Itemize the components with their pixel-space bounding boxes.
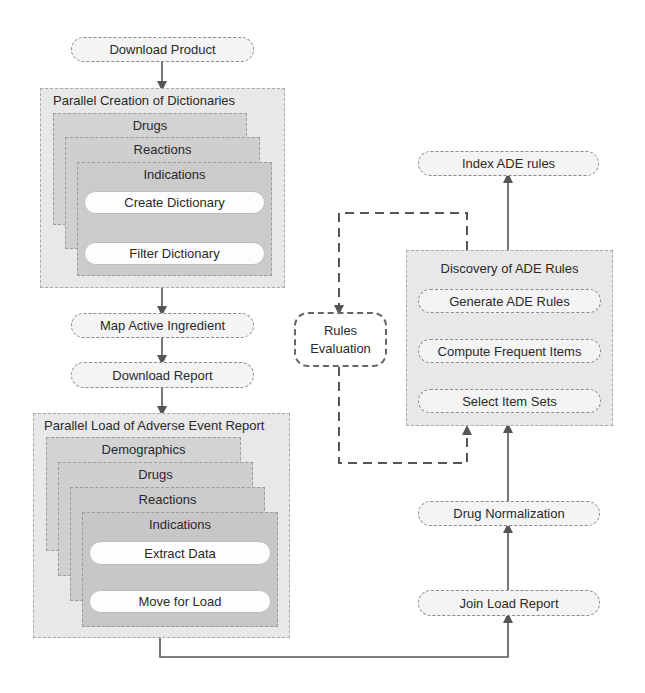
select-item-sets-label: Select Item Sets <box>462 394 557 409</box>
map-active-ingredient-label: Map Active Ingredient <box>100 318 225 333</box>
generate-ade-rules-label: Generate ADE Rules <box>449 294 570 309</box>
rules-evaluation-line1: Rules <box>324 322 357 340</box>
select-item-sets-node[interactable]: Select Item Sets <box>418 389 601 413</box>
join-load-report-label: Join Load Report <box>459 596 558 611</box>
drug-normalization-node[interactable]: Drug Normalization <box>418 501 600 526</box>
extract-data-label: Extract Data <box>144 546 216 561</box>
map-active-ingredient-node[interactable]: Map Active Ingredient <box>71 313 254 338</box>
compute-frequent-items-label: Compute Frequent Items <box>438 344 582 359</box>
index-ade-rules-label: Index ADE rules <box>462 156 555 171</box>
move-for-load-node[interactable]: Move for Load <box>89 590 271 613</box>
generate-ade-rules-node[interactable]: Generate ADE Rules <box>418 289 601 313</box>
discovery-group-title: Discovery of ADE Rules <box>407 261 612 276</box>
load-layer-demographics-label: Demographics <box>47 442 240 457</box>
load-layer-reactions-label: Reactions <box>71 492 264 507</box>
join-load-report-node[interactable]: Join Load Report <box>418 590 600 616</box>
dictionary-layer-indications-label: Indications <box>78 167 271 182</box>
download-report-node[interactable]: Download Report <box>71 362 254 388</box>
dictionary-layer-drugs-label: Drugs <box>54 118 246 133</box>
rules-evaluation-line2: Evaluation <box>310 340 371 358</box>
rules-evaluation-node[interactable]: Rules Evaluation <box>294 312 387 367</box>
compute-frequent-items-node[interactable]: Compute Frequent Items <box>418 339 601 363</box>
drug-normalization-label: Drug Normalization <box>453 506 564 521</box>
index-ade-rules-node[interactable]: Index ADE rules <box>418 151 599 176</box>
extract-data-node[interactable]: Extract Data <box>89 541 271 565</box>
dictionaries-group-title: Parallel Creation of Dictionaries <box>53 93 235 108</box>
create-dictionary-node[interactable]: Create Dictionary <box>84 191 265 214</box>
load-layer-drugs-label: Drugs <box>59 467 252 482</box>
create-dictionary-label: Create Dictionary <box>124 195 224 210</box>
download-product-node[interactable]: Download Product <box>71 37 254 62</box>
load-layer-indications-label: Indications <box>83 517 277 532</box>
download-product-label: Download Product <box>109 42 215 57</box>
move-for-load-label: Move for Load <box>138 594 221 609</box>
filter-dictionary-node[interactable]: Filter Dictionary <box>84 242 265 265</box>
download-report-label: Download Report <box>112 368 212 383</box>
load-group-title: Parallel Load of Adverse Event Report <box>44 418 264 433</box>
dictionary-layer-reactions-label: Reactions <box>66 142 259 157</box>
filter-dictionary-label: Filter Dictionary <box>129 246 219 261</box>
